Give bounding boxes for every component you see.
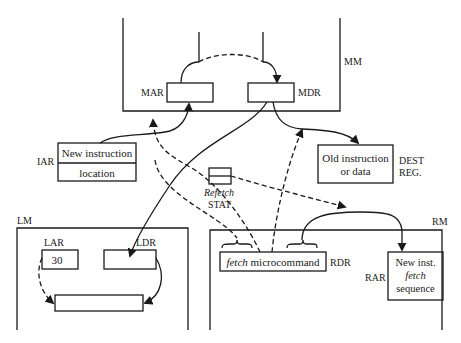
rdr-text-rest: microcommand	[248, 256, 320, 268]
lar-value: 30	[42, 254, 72, 268]
rdr-content: fetch microcommand	[220, 256, 326, 270]
dest-line1: Old instruction	[318, 152, 393, 166]
rdr-label: RDR	[330, 258, 351, 268]
rm-label: RM	[432, 217, 448, 227]
mar-box	[167, 83, 213, 102]
lm-module-border	[17, 228, 188, 330]
rar-label: RAR	[365, 273, 386, 283]
iar-line1: New instruction	[58, 147, 136, 161]
rar-line3: sequence	[388, 282, 443, 295]
ldr-box	[104, 250, 156, 269]
iar-line2: location	[58, 167, 136, 181]
lar-label: LAR	[44, 238, 64, 248]
iar-label: IAR	[37, 157, 54, 167]
rar-line2: fetch	[388, 269, 443, 282]
mdr-label: MDR	[298, 88, 321, 98]
stat-label-1: Refetch	[204, 188, 234, 198]
mdr-box	[248, 83, 294, 102]
rdr-text-italic: fetch	[226, 256, 247, 268]
dest-label-2: REG.	[399, 168, 422, 178]
lm-label: LM	[17, 216, 32, 226]
mar-label: MAR	[141, 88, 164, 98]
dest-line2: or data	[318, 165, 393, 179]
rar-line1: New inst.	[388, 256, 443, 269]
lm-output-box	[55, 295, 143, 311]
mm-label: MM	[344, 57, 362, 67]
ldr-label: LDR	[136, 238, 156, 248]
stat-label-2: STAT	[208, 200, 231, 210]
dest-label-1: DEST	[399, 156, 424, 166]
